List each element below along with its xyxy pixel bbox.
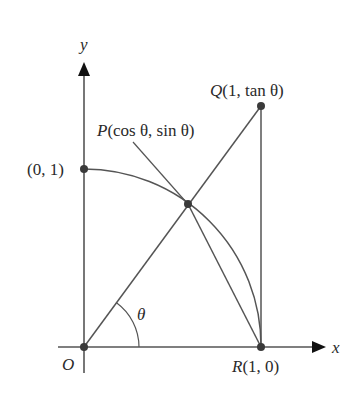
P-label-leader [133,142,186,202]
unit-circle-diagram: y x O (0, 1) P(cos θ, sin θ) Q(1, tan θ)… [0,0,353,399]
P-coords: (cos θ, sin θ) [107,121,194,140]
line-OQ [84,106,261,347]
Q-coords: (1, tan θ) [222,81,283,100]
point-Q [257,102,265,110]
R-name: R [231,357,243,376]
Q-label: Q(1, tan θ) [210,81,284,100]
origin-label: O [62,355,74,374]
line-PR [188,204,261,347]
x-axis-label: x [331,338,340,357]
unit-circle-arc [84,169,261,347]
y-axis-arrow-icon [78,62,90,76]
y-intercept-label: (0, 1) [27,160,64,179]
R-coords: (1, 0) [242,357,279,376]
theta-arc [117,303,140,347]
Q-name: Q [210,81,222,100]
x-axis-arrow-icon [312,341,326,353]
R-label: R(1, 0) [231,357,279,376]
P-label: P(cos θ, sin θ) [96,121,195,140]
theta-label: θ [137,305,145,324]
point-R [257,343,265,351]
y-axis-label: y [78,35,88,54]
point-O [80,343,88,351]
point-P [184,200,192,208]
point-y-intercept [80,165,88,173]
P-name: P [96,121,107,140]
